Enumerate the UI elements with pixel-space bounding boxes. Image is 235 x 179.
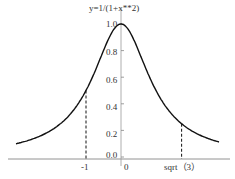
ytick-label: 0.0	[106, 150, 118, 160]
xtick-label-0: 0	[124, 162, 129, 172]
ytick-label: 1.0	[106, 19, 118, 29]
y-ticks	[121, 24, 124, 157]
chart-title: y=1/(1+x**2)	[89, 3, 139, 13]
ytick-label: 0.2	[106, 129, 117, 139]
ytick-label: 0.8	[106, 47, 118, 57]
chart: y=1/(1+x**2) -1 0 sqrt（3） 0.0 0.2 0.4 0.…	[0, 0, 235, 179]
ytick-label: 0.6	[106, 75, 118, 85]
ytick-label: 0.4	[106, 102, 118, 112]
xtick-label-neg1: -1	[81, 162, 89, 172]
xtick-label-sqrt3: sqrt（3）	[164, 162, 200, 172]
function-curve	[16, 24, 219, 144]
